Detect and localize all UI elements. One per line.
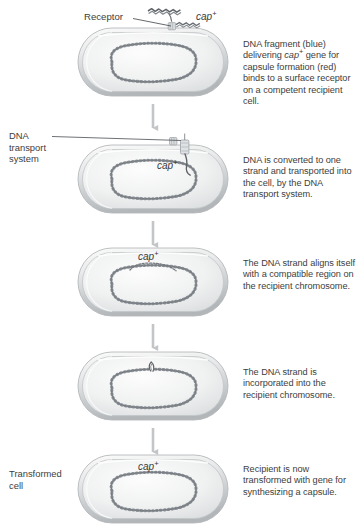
step-1-cell — [78, 28, 228, 96]
description-step-5: Recipient is now transformed with gene f… — [243, 464, 355, 498]
dna-transport-line-3: system — [9, 153, 39, 164]
figure-canvas: Receptor cap+ DNA transport system Trans… — [0, 0, 360, 525]
cap-text-step-2: cap — [157, 160, 173, 171]
transformed-cell-line-1: Transformed — [9, 468, 62, 479]
description-step-4: The DNA strand is incorporated into the … — [243, 367, 355, 401]
step-4-cell — [78, 352, 228, 420]
cap-label-step-2: cap+ — [157, 160, 178, 171]
dna-transport-system-label: DNA transport system — [9, 130, 87, 165]
description-step-3: The DNA strand aligns itself with a comp… — [243, 258, 355, 292]
cap-sup-step-3: + — [154, 249, 158, 258]
description-step-2: DNA is converted to one strand and trans… — [243, 155, 355, 201]
receptor-and-dna-fragment — [133, 9, 200, 30]
cap-label-step-3: cap+ — [138, 251, 159, 262]
dna-transport-line-2: transport — [9, 142, 46, 153]
cap-sup-step-5: + — [154, 459, 158, 468]
cap-gene-superscript: + — [212, 9, 216, 18]
cap-label-step-5: cap+ — [138, 461, 159, 472]
transformed-cell-line-2: cell — [9, 480, 23, 491]
cap-gene-text: cap — [196, 11, 212, 22]
cap-gene-label-top: cap+ — [196, 11, 217, 22]
cap-text-step-5: cap — [138, 461, 154, 472]
cap-sup-step-2: + — [173, 158, 177, 167]
description-step-1: DNA fragment (blue) delivering cap+ gene… — [243, 39, 355, 107]
transformed-cell-label: Transformed cell — [9, 468, 87, 491]
cap-text-step-3: cap — [138, 251, 154, 262]
desc-1-cap: cap — [284, 50, 299, 60]
dna-transport-line-1: DNA — [9, 130, 29, 141]
receptor-label: Receptor — [84, 11, 123, 22]
